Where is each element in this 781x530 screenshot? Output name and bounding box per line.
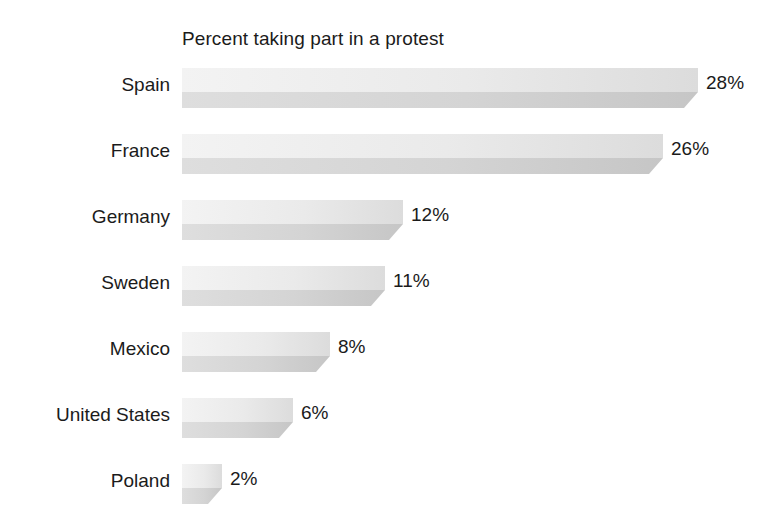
- bar-row: Spain 28%: [0, 66, 781, 112]
- category-label: Germany: [0, 206, 170, 228]
- bar: [182, 200, 403, 240]
- bar: [182, 68, 698, 108]
- bar: [182, 464, 222, 504]
- category-label: Spain: [0, 74, 170, 96]
- category-label: United States: [0, 404, 170, 426]
- bar-shape: [182, 398, 293, 438]
- bar-shape: [182, 134, 663, 174]
- bar-row: Germany 12%: [0, 198, 781, 244]
- bar-shape: [182, 332, 330, 372]
- bar-value-label: 26%: [671, 138, 709, 160]
- category-label: Poland: [0, 470, 170, 492]
- bar-shape: [182, 266, 385, 306]
- bar: [182, 398, 293, 438]
- bar-shape: [182, 68, 698, 108]
- category-label: Sweden: [0, 272, 170, 294]
- bar-shape: [182, 200, 403, 240]
- bar-value-label: 8%: [338, 336, 365, 358]
- bar-row: Sweden 11%: [0, 264, 781, 310]
- bar-chart: Percent taking part in a protest Spain: [0, 0, 781, 530]
- plot-area: Spain 28%Fr: [0, 0, 781, 530]
- bar-shape: [182, 464, 222, 504]
- bar: [182, 332, 330, 372]
- category-label: Mexico: [0, 338, 170, 360]
- bar-row: Mexico 8%: [0, 330, 781, 376]
- bar: [182, 134, 663, 174]
- bar-value-label: 2%: [230, 468, 257, 490]
- bar-row: United States: [0, 396, 781, 442]
- bar-value-label: 12%: [411, 204, 449, 226]
- bar-value-label: 6%: [301, 402, 328, 424]
- bar-row: Poland 2%: [0, 462, 781, 508]
- bar-value-label: 28%: [706, 72, 744, 94]
- bar-value-label: 11%: [393, 270, 430, 292]
- bar: [182, 266, 385, 306]
- bar-row: France 26%: [0, 132, 781, 178]
- category-label: France: [0, 140, 170, 162]
